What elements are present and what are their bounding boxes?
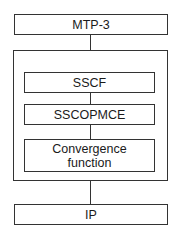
- connector-mtp3-container: [90, 34, 91, 51]
- sscf-label: SSCF: [73, 76, 106, 90]
- sscopmce-layer-box: SSCOPMCE: [24, 104, 155, 125]
- ip-label: IP: [85, 208, 97, 222]
- convergence-function-label: Convergence function: [45, 142, 134, 170]
- sscf-layer-box: SSCF: [24, 72, 155, 93]
- ip-layer-box: IP: [14, 204, 168, 225]
- connector-container-ip: [90, 180, 91, 204]
- convergence-function-box: Convergence function: [24, 139, 155, 172]
- sscopmce-label: SSCOPMCE: [54, 108, 126, 122]
- mtp3-label: MTP-3: [72, 18, 110, 32]
- mtp3-layer-box: MTP-3: [14, 14, 168, 35]
